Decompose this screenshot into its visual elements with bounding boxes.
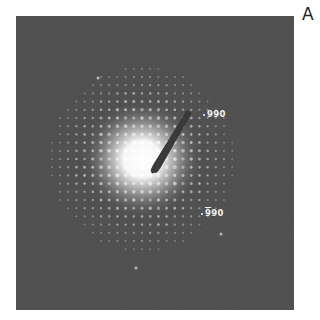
panel-label: A <box>302 6 314 23</box>
spot-marker-icon <box>203 114 205 116</box>
index-label-bar990: 990 <box>201 209 224 218</box>
diffraction-pattern-image: 990 990 <box>16 16 294 310</box>
index-label-990: 990 <box>203 110 226 119</box>
diffraction-spots <box>16 16 294 310</box>
spot-marker-icon <box>201 213 203 215</box>
